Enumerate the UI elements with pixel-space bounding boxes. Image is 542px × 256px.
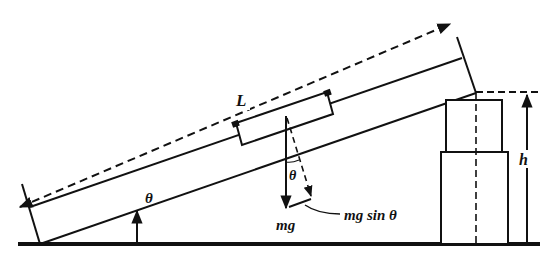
track-left-end [22, 184, 40, 244]
force-angle-arc [286, 160, 299, 162]
component-leader [305, 205, 340, 214]
support-stack [441, 100, 508, 244]
support-block-lower [441, 152, 508, 244]
inclined-track-diagram: L θ mg mg sin θ θ h [0, 0, 542, 256]
length-label: L [235, 91, 246, 110]
component-vector [289, 199, 311, 207]
support-block-upper [446, 100, 502, 152]
length-dimension-arrow [20, 24, 450, 207]
height-label: h [519, 151, 528, 168]
track-right-end [457, 37, 476, 93]
base-angle-label: θ [145, 190, 153, 206]
force-angle-label: θ [289, 168, 297, 183]
glider-body [236, 92, 333, 145]
component-label: mg sin θ [344, 207, 397, 223]
weight-label: mg [276, 217, 296, 233]
